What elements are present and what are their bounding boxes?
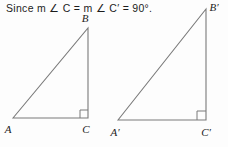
vertex-label-b: B — [82, 12, 89, 24]
vertex-label-c: C — [82, 123, 90, 135]
triangle-a-prime-outline — [118, 9, 206, 120]
right-angle-mark-c — [80, 110, 88, 118]
vertex-label-a-prime: A′ — [109, 126, 120, 138]
triangle-abc: A B C — [4, 12, 91, 135]
figure-page: Since m ∠ C = m ∠ C′ = 90°. A B C A′ B′ … — [0, 0, 228, 147]
vertex-label-a: A — [4, 123, 12, 135]
geometry-figure: A B C A′ B′ C′ — [0, 0, 228, 147]
right-angle-mark-c-prime — [197, 111, 206, 120]
vertex-label-b-prime: B′ — [209, 1, 219, 13]
triangle-a-prime-b-prime-c-prime: A′ B′ C′ — [109, 1, 219, 138]
vertex-label-c-prime: C′ — [201, 126, 211, 138]
triangle-abc-outline — [13, 28, 88, 118]
